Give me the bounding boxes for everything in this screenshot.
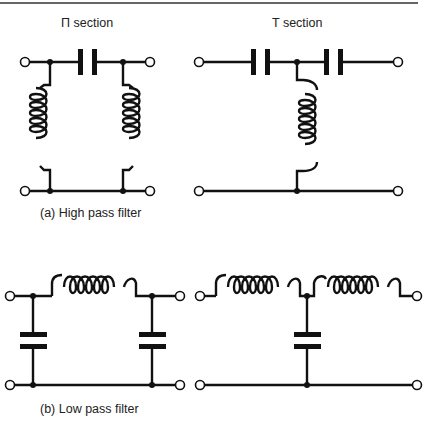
capacitor-series-2 xyxy=(324,49,329,75)
inductor-series-left xyxy=(228,277,278,294)
low-pass-caption: (b) Low pass filter xyxy=(40,402,139,416)
pi-section-high-pass xyxy=(29,49,146,191)
capacitor-shunt-left xyxy=(20,332,47,337)
high-pass-caption: (a) High pass filter xyxy=(40,206,141,220)
capacitor-shunt xyxy=(294,332,321,337)
capacitor-series-1 xyxy=(251,49,256,75)
pi-section-low-pass xyxy=(14,275,176,385)
inductor-shunt-right xyxy=(123,88,140,138)
terminals xyxy=(6,58,422,390)
inductor-shunt xyxy=(299,94,316,144)
capacitor-shunt-right xyxy=(139,332,166,337)
t-section-label: T section xyxy=(272,16,323,30)
pi-section-label: Π section xyxy=(61,16,113,30)
inductor-shunt-left xyxy=(30,88,47,138)
t-section-high-pass xyxy=(203,49,394,191)
capacitor-series xyxy=(78,49,83,75)
inductor-series-right xyxy=(328,277,378,294)
t-section-low-pass xyxy=(204,275,413,385)
junction-dots xyxy=(30,59,310,388)
inductor-series xyxy=(64,277,114,294)
